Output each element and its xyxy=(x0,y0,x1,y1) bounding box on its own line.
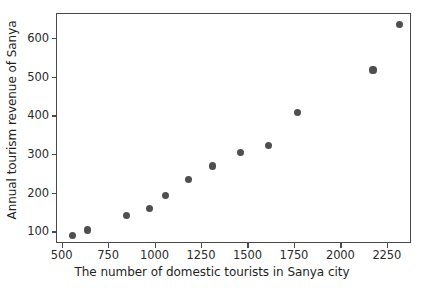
x-tick-label: 1500 xyxy=(233,248,262,262)
x-tick-label: 2000 xyxy=(326,248,355,262)
y-tick-mark xyxy=(52,231,57,232)
data-points-layer xyxy=(57,14,410,242)
data-point xyxy=(294,109,301,116)
y-tick-mark xyxy=(52,154,57,155)
plot-area xyxy=(56,13,411,243)
data-point xyxy=(396,21,403,28)
y-tick-label: 400 xyxy=(27,108,49,122)
x-tick-label: 2250 xyxy=(372,248,401,262)
data-point xyxy=(123,212,130,219)
data-point xyxy=(84,226,91,233)
x-tick-label: 1750 xyxy=(279,248,308,262)
x-tick-label: 500 xyxy=(51,248,73,262)
y-tick-label: 200 xyxy=(27,186,49,200)
x-tick-mark xyxy=(201,243,202,248)
data-point xyxy=(69,232,76,239)
x-tick-label: 750 xyxy=(97,248,119,262)
y-tick-mark xyxy=(52,193,57,194)
x-tick-mark xyxy=(247,243,248,248)
data-point xyxy=(369,66,376,73)
data-point xyxy=(162,192,169,199)
x-tick-mark xyxy=(294,243,295,248)
x-tick-label: 1250 xyxy=(187,248,216,262)
x-tick-mark xyxy=(340,243,341,248)
x-tick-mark xyxy=(108,243,109,248)
y-tick-label: 100 xyxy=(27,224,49,238)
y-axis-label: Annual tourism revenue of Sanya xyxy=(5,5,19,235)
y-tick-label: 500 xyxy=(27,70,49,84)
data-point xyxy=(209,162,216,169)
x-axis-label: The number of domestic tourists in Sanya… xyxy=(0,265,424,279)
y-tick-label: 300 xyxy=(27,147,49,161)
y-tick-label: 600 xyxy=(27,31,49,45)
y-tick-mark xyxy=(52,115,57,116)
scatter-chart-figure: 500750100012501500175020002250 100200300… xyxy=(0,0,424,295)
y-tick-mark xyxy=(52,38,57,39)
x-tick-label: 1000 xyxy=(140,248,169,262)
y-tick-mark xyxy=(52,77,57,78)
data-point xyxy=(185,176,192,183)
data-point xyxy=(146,205,153,212)
x-tick-mark xyxy=(387,243,388,248)
data-point xyxy=(237,149,244,156)
x-tick-mark xyxy=(155,243,156,248)
data-point xyxy=(265,142,272,149)
x-tick-mark xyxy=(62,243,63,248)
